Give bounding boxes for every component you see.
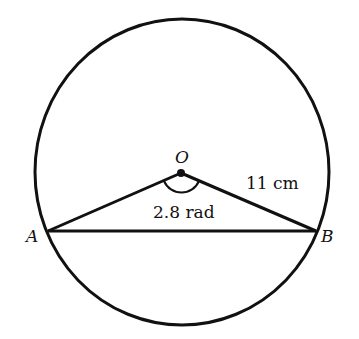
label-a: A — [24, 226, 38, 246]
label-b: B — [320, 226, 334, 246]
circle-diagram: O A B 2.8 rad 11 cm — [0, 0, 359, 339]
label-angle: 2.8 rad — [153, 202, 215, 222]
angle-arc — [164, 181, 199, 193]
label-radius: 11 cm — [246, 173, 299, 193]
centre-point — [177, 169, 185, 177]
label-o: O — [175, 147, 189, 167]
